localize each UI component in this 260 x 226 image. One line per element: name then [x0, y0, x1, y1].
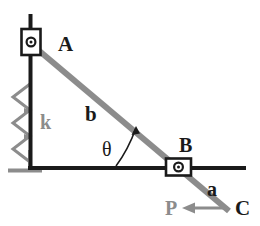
horizontal-ground-guide — [28, 166, 246, 170]
label-point-c: C — [235, 196, 250, 220]
mechanism-diagram-canvas: A B C k b a P θ — [0, 0, 260, 226]
label-link-a: a — [207, 178, 217, 200]
slider-block-b[interactable] — [166, 159, 191, 176]
label-joint-b: B — [179, 134, 192, 156]
label-angle-theta: θ — [102, 138, 112, 160]
slider-block-a[interactable] — [22, 29, 41, 55]
label-joint-a: A — [58, 32, 74, 56]
label-spring-constant-k: k — [40, 111, 52, 133]
label-link-b: b — [85, 102, 97, 126]
mechanism-figure: A B C k b a P θ — [0, 0, 260, 226]
label-force-p: P — [165, 197, 177, 219]
pin-joint-b-center — [177, 166, 180, 169]
pin-joint-a-center — [30, 41, 33, 44]
